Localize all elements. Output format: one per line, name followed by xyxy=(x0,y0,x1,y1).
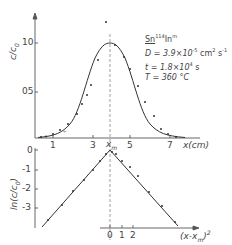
svg-text:+: + xyxy=(62,127,67,134)
tick-minus-2: -2 xyxy=(22,184,31,193)
tick-minus-1: -1 xyxy=(22,165,31,174)
bx-tick-2: 2 xyxy=(130,231,136,240)
bx-tick-1: 1 xyxy=(119,231,125,240)
bx-axis-label: (x-xm)2 xyxy=(180,230,211,243)
chart-legend: Sn114Inm D = 3.9×10-5 cm2 s-1 t = 1.8×10… xyxy=(145,31,227,84)
top-y-axis-label: c/c0 xyxy=(9,43,20,60)
legend-system: Sn114Inm xyxy=(145,31,227,45)
legend-temp: T = 360 °C xyxy=(145,73,227,84)
legend-t: t = 1.8×104 s xyxy=(145,59,227,73)
x-tick-xm: xm xyxy=(106,140,117,151)
bottom-axes xyxy=(35,148,199,230)
tick-10: 10 xyxy=(22,38,33,47)
legend-d: D = 3.9×10-5 cm2 s-1 xyxy=(145,45,227,59)
tick-05: 05 xyxy=(22,87,33,96)
x-tick-3: 3 xyxy=(90,141,96,150)
x-axis-label: x(cm) xyxy=(183,141,209,150)
bottom-data-points xyxy=(47,151,176,223)
x-tick-1: 1 xyxy=(50,141,56,150)
x-tick-5: 5 xyxy=(127,141,133,150)
tick-0: 0 xyxy=(27,146,33,155)
bx-tick-0: 0 xyxy=(107,231,113,240)
x-tick-7: 7 xyxy=(167,141,173,150)
bottom-y-axis-label: ln(c/c0) xyxy=(10,178,21,210)
tick-minus-3: -3 xyxy=(22,203,31,212)
